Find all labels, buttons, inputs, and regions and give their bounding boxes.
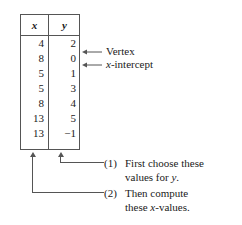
table-row: 8 4 xyxy=(21,96,79,111)
up-arrow-icon-x-column xyxy=(30,152,36,157)
cell-y: 2 xyxy=(49,36,76,51)
left-arrow-icon xyxy=(82,59,102,72)
step-2-line2: these x-values. xyxy=(125,200,242,214)
leader-1-horizontal xyxy=(60,162,104,163)
step-1-line2-prefix: values for xyxy=(125,171,171,183)
table-body: 4 2 8 0 5 1 5 3 8 4 13 5 xyxy=(21,36,79,141)
cell-x: 4 xyxy=(21,36,44,51)
step-1-number: (1) xyxy=(104,156,123,170)
table-row: 13 −1 xyxy=(21,126,79,141)
leader-2-horizontal xyxy=(32,192,104,193)
step-2-line2-prefix: these xyxy=(125,201,150,213)
table-header-y: y xyxy=(49,18,80,32)
vertex-callout: Vertex xyxy=(82,45,135,59)
cell-x: 13 xyxy=(21,111,44,126)
table-row: 8 0 xyxy=(21,51,79,66)
step-2-number: (2) xyxy=(104,186,123,200)
cell-y: 1 xyxy=(49,66,76,81)
table-row: 13 5 xyxy=(21,111,79,126)
step-1-line2-suffix: . xyxy=(176,171,179,183)
cell-x: 8 xyxy=(21,96,44,111)
step-1-text: First choose these values for y. xyxy=(125,156,242,184)
x-intercept-label: -intercept xyxy=(111,58,153,70)
step-2-text: Then compute these x-values. xyxy=(125,186,242,214)
step-2-line1: Then compute xyxy=(125,187,188,199)
cell-x: 5 xyxy=(21,81,44,96)
value-table: x y 4 2 8 0 5 1 5 3 8 4 xyxy=(20,14,80,150)
cell-x: 13 xyxy=(21,126,44,141)
step-1-line1: First choose these xyxy=(125,157,204,169)
cell-y: 5 xyxy=(49,111,76,126)
up-arrow-icon-y-column xyxy=(58,152,64,157)
leader-2-vertical xyxy=(32,157,33,193)
table-header-x: x xyxy=(21,18,48,32)
table-header-row: x y xyxy=(21,15,79,35)
vertex-label: Vertex xyxy=(106,45,135,57)
x-intercept-callout: x-intercept xyxy=(82,58,153,72)
cell-y: −1 xyxy=(49,126,76,141)
cell-y: 4 xyxy=(49,96,76,111)
cell-y: 3 xyxy=(49,81,76,96)
table-row: 4 2 xyxy=(21,36,79,51)
cell-y: 0 xyxy=(49,51,76,66)
figure-canvas: x y 4 2 8 0 5 1 5 3 8 4 xyxy=(0,0,242,225)
table-row: 5 1 xyxy=(21,66,79,81)
step-1-line2: values for y. xyxy=(125,170,242,184)
cell-x: 8 xyxy=(21,51,44,66)
cell-x: 5 xyxy=(21,66,44,81)
step-2-line2-suffix: -values. xyxy=(155,201,190,213)
table-row: 5 3 xyxy=(21,81,79,96)
